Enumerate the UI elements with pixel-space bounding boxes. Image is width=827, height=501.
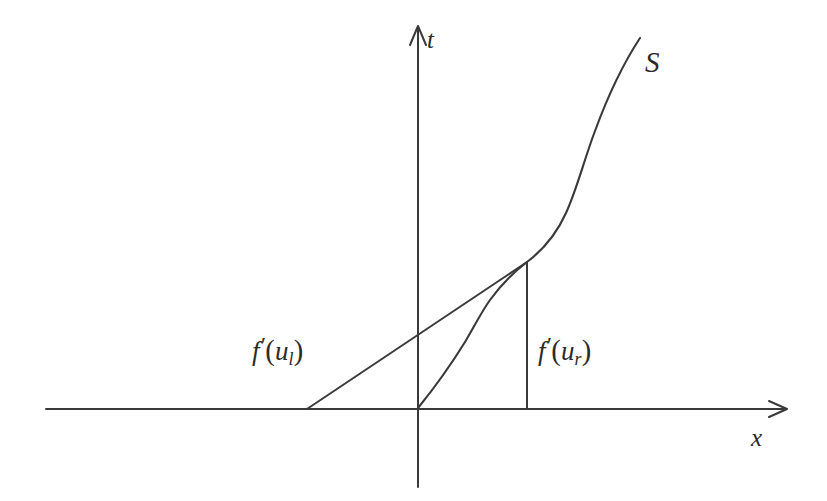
right-speed-open-paren: ( [551, 334, 561, 366]
right-speed-f: f [538, 336, 546, 366]
left-speed-f: f [252, 336, 260, 366]
left-speed-subscript: l [289, 349, 294, 369]
figure-root: t x S f′(ul) f′(ur) [0, 0, 827, 501]
left-speed-close-paren: ) [294, 334, 304, 366]
diagram-canvas [0, 0, 827, 501]
right-speed-var: u [561, 336, 575, 366]
shock-curve-s [418, 38, 640, 408]
left-speed-var: u [275, 336, 289, 366]
right-speed-label: f′(ur) [538, 335, 592, 369]
right-speed-close-paren: ) [582, 334, 592, 366]
right-speed-subscript: r [575, 349, 582, 369]
t-axis-label: t [427, 27, 434, 52]
x-axis-label: x [751, 425, 762, 450]
left-speed-label: f′(ul) [252, 335, 304, 369]
shock-curve-label: S [645, 48, 660, 77]
left-speed-open-paren: ( [265, 334, 275, 366]
